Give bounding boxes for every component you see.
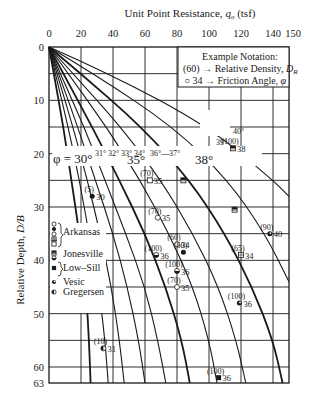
- x-axis-label: Unit Point Resistance, qo (tsf): [125, 7, 256, 21]
- notation-box: Example Notation: (60) → Relative Densit…: [178, 47, 298, 87]
- label-phi-30: φ = 30°: [53, 151, 93, 166]
- legend: Arkansas Jonesville Low–Sill Vesic Grege…: [50, 222, 106, 313]
- svg-text:(5): (5): [85, 185, 95, 194]
- data-point: (70)35: [140, 169, 162, 186]
- svg-text:36: 36: [160, 251, 169, 261]
- data-point: (100)36: [228, 292, 252, 309]
- curve-33deg: [49, 47, 145, 383]
- label-phi-37: 37°: [169, 149, 180, 158]
- data-point: (5)30: [85, 185, 105, 202]
- label-phi-36: 36°—: [150, 149, 170, 158]
- svg-text:(70): (70): [140, 169, 154, 178]
- x-tick: 100: [201, 28, 217, 39]
- x-tick: 120: [233, 28, 249, 39]
- svg-text:30: 30: [96, 192, 105, 202]
- y-tick: 30: [34, 202, 45, 213]
- legend-jonesville: Jonesville: [63, 248, 104, 259]
- y-tick: 0: [39, 42, 44, 53]
- legend-gregersen: Gregersen: [63, 286, 104, 297]
- y-tick: 50: [34, 309, 45, 320]
- x-tick: 60: [140, 28, 151, 39]
- svg-text:(70): (70): [167, 276, 181, 285]
- svg-text:(10): (10): [94, 337, 108, 346]
- y-tick: 10: [34, 95, 45, 106]
- x-tick: 140: [265, 28, 281, 39]
- y-tick: 63: [34, 378, 45, 389]
- y-tick: 20: [34, 149, 45, 160]
- svg-text:(65): (65): [231, 244, 245, 253]
- data-point: (100)36: [207, 367, 231, 384]
- data-point: (100)36: [145, 244, 169, 261]
- svg-text:35: 35: [154, 176, 163, 186]
- label-phi-35: 35°: [127, 152, 145, 167]
- legend-arkansas: Arkansas: [63, 226, 100, 237]
- chart: Unit Point Resistance, qo (tsf) 02040608…: [0, 0, 314, 409]
- svg-text:35: 35: [181, 283, 190, 293]
- notation-line2: ○ 34 → Friction Angle, φ: [184, 75, 287, 86]
- y-tick: 40: [34, 255, 45, 266]
- svg-text:35: 35: [162, 213, 171, 223]
- label-small-angle: 32°: [108, 149, 119, 158]
- svg-text:34: 34: [245, 251, 254, 261]
- curve-36deg: [49, 47, 217, 383]
- data-point: (60): [174, 241, 188, 255]
- y-tick: 60: [34, 362, 45, 373]
- data-point: (70)35: [148, 207, 170, 224]
- svg-text:36: 36: [243, 299, 252, 309]
- svg-text:(60): (60): [174, 241, 188, 250]
- label-phi-40: 40°: [233, 127, 244, 136]
- label-small-angle: 31°: [95, 149, 106, 158]
- x-tick: 150: [285, 28, 301, 39]
- x-tick: 80: [172, 28, 183, 39]
- x-tick: 0: [46, 28, 51, 39]
- svg-text:38: 38: [237, 144, 246, 154]
- data-point: [232, 207, 237, 212]
- svg-text:(70): (70): [148, 207, 162, 216]
- svg-text:31: 31: [107, 344, 116, 354]
- x-tick-labels: 020406080100120140150: [46, 28, 301, 39]
- curve-30deg: [49, 47, 91, 383]
- x-tick: 20: [76, 28, 87, 39]
- y-tick-labels: 010203040506063: [34, 42, 45, 389]
- y-axis-label: Relative Depth, D/B: [14, 215, 26, 305]
- svg-text:(90): (90): [260, 223, 274, 232]
- data-point: (65)34: [231, 244, 254, 261]
- legend-low-sill: Low–Sill: [63, 262, 100, 273]
- notation-title: Example Notation:: [202, 51, 278, 62]
- svg-text:40: 40: [274, 229, 283, 239]
- svg-text:36: 36: [223, 373, 232, 383]
- svg-text:36: 36: [181, 267, 190, 277]
- data-point: (70)35: [167, 276, 189, 293]
- label-phi-38: 38°: [195, 152, 213, 167]
- x-tick: 40: [108, 28, 119, 39]
- data-point: [181, 178, 186, 183]
- data-point: (90)40: [260, 223, 282, 240]
